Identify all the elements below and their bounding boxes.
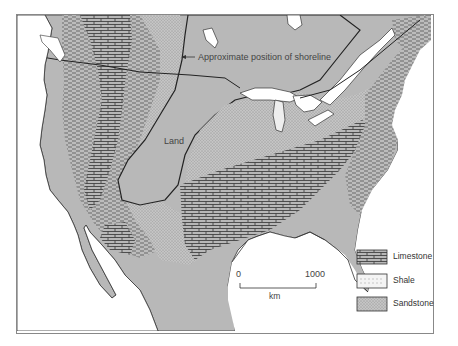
legend-label-shale: Shale bbox=[393, 275, 415, 285]
legend-swatch-limestone bbox=[357, 250, 387, 264]
legend-label-limestone: Limestone bbox=[393, 251, 432, 261]
legend-swatch-sandstone bbox=[357, 297, 387, 311]
legend bbox=[357, 250, 387, 311]
shoreline-label: Approximate position of shoreline bbox=[198, 52, 331, 62]
scale-start-label: 0 bbox=[236, 269, 241, 279]
scale-unit-label: km bbox=[269, 291, 280, 301]
land-label: Land bbox=[164, 136, 184, 146]
scale-end-label: 1000 bbox=[305, 269, 325, 279]
legend-label-sandstone: Sandstone bbox=[393, 298, 434, 308]
legend-swatch-shale bbox=[357, 274, 387, 288]
